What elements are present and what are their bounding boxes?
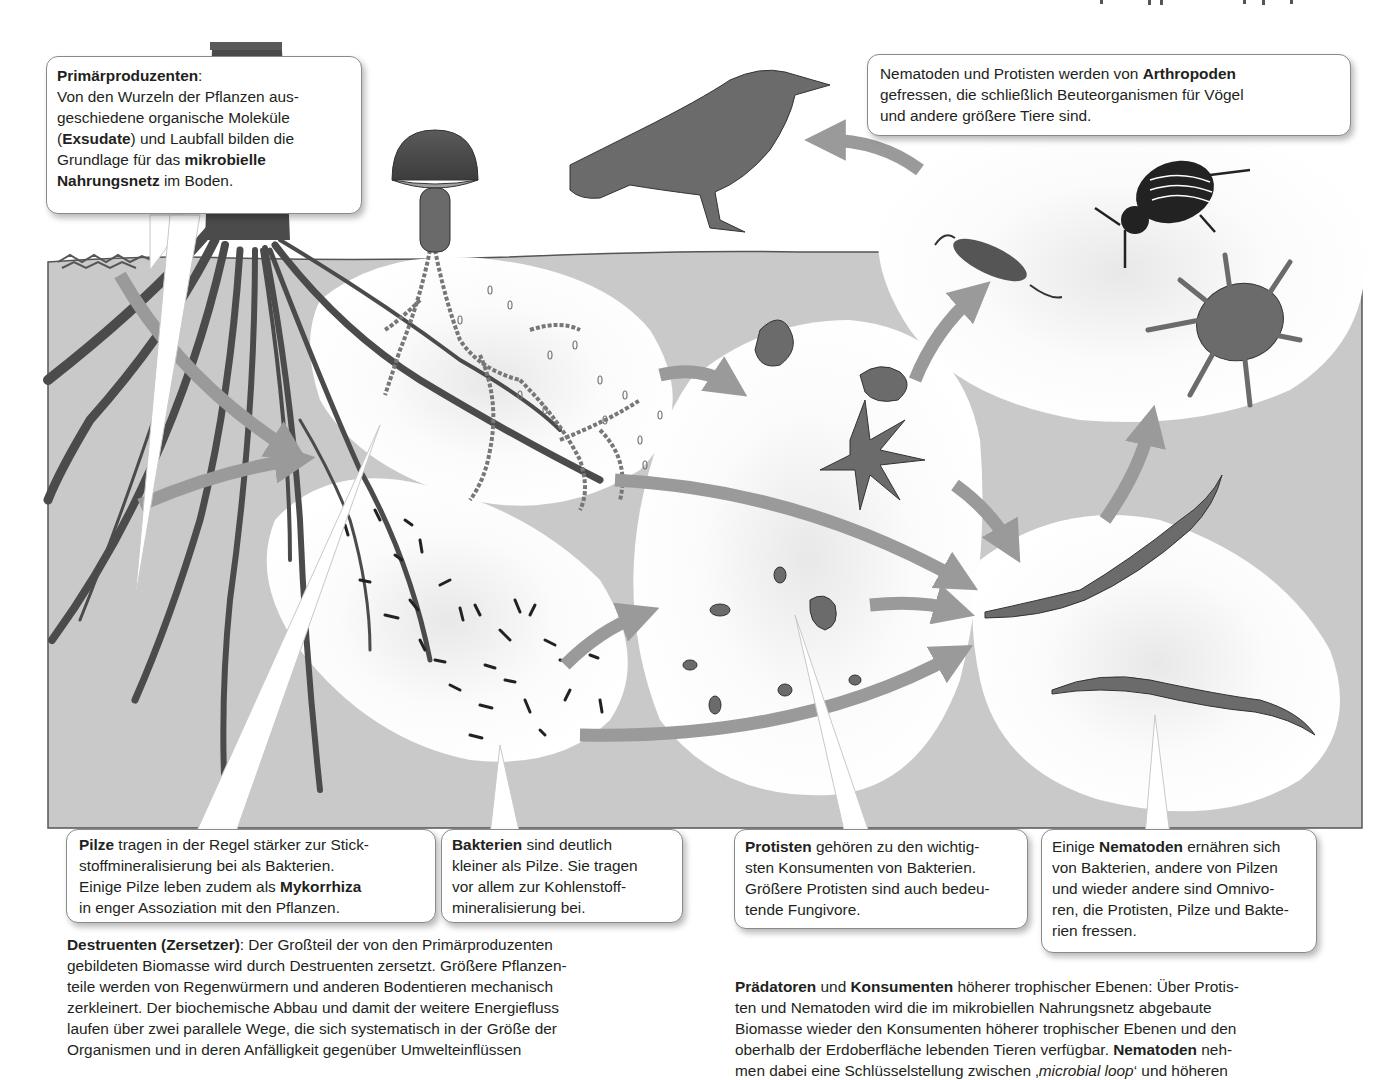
term-primaerproduzenten: Primärproduzenten xyxy=(57,67,198,84)
term-bakterien: Bakterien xyxy=(452,836,522,853)
term-microbial-loop: microbial loop xyxy=(1039,1062,1134,1079)
term-nematoden-key: Nematoden xyxy=(1113,1041,1197,1058)
callout-bakterien: Bakterien sind deutlich kleiner als Pilz… xyxy=(441,829,683,923)
callout-arthropoden: Nematoden und Protisten werden von Arthr… xyxy=(867,54,1351,136)
term-pilze: Pilze xyxy=(79,836,114,853)
term-exsudate: Exsudate xyxy=(62,130,130,147)
callout-nematoden: Einige Nematoden ernähren sich von Bakte… xyxy=(1041,829,1317,953)
paragraph-praedatoren: Prädatoren und Konsumenten höherer troph… xyxy=(735,976,1385,1080)
bird xyxy=(570,70,830,232)
mushroom xyxy=(392,130,478,252)
term-destruenten: Destruenten (Zersetzer) xyxy=(67,936,240,953)
term-mikrobielle: mikrobielle xyxy=(184,151,265,168)
term-arthropoden: Arthropoden xyxy=(1143,65,1236,82)
term-nematoden: Nematoden xyxy=(1099,838,1183,855)
callout-protisten: Protisten gehören zu den wichtig- sten K… xyxy=(734,829,1028,929)
arrow-arthropods-to-bird xyxy=(825,140,920,170)
cropped-text-remnant xyxy=(1100,0,1293,5)
term-protisten: Protisten xyxy=(745,838,812,855)
callout-pilze: Pilze tragen in der Regel stärker zur St… xyxy=(66,829,436,923)
paragraph-destruenten: Destruenten (Zersetzer): Der Großteil de… xyxy=(67,934,727,1060)
callout-primaerproduzenten: Primärproduzenten: Von den Wurzeln der P… xyxy=(46,56,362,214)
term-praedatoren: Prädatoren xyxy=(735,978,816,995)
term-nahrungsnetz: Nahrungsnetz xyxy=(57,172,160,189)
arrow-protists-to-nematodes-b xyxy=(870,603,955,610)
term-mykorrhiza: Mykorrhiza xyxy=(280,878,361,895)
soil-food-web-figure: Primärproduzenten: Von den Wurzeln der P… xyxy=(0,0,1393,1080)
term-konsumenten: Konsumenten xyxy=(851,978,954,995)
